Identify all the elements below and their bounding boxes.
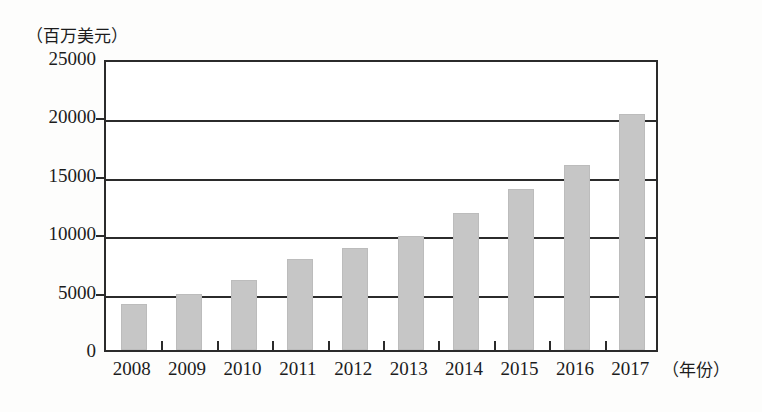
bar-2013: [398, 236, 424, 350]
y-axis-tick-mark: [96, 118, 104, 120]
x-axis-tick-mark: [438, 341, 440, 350]
x-axis-tick-mark: [383, 341, 385, 350]
y-axis-tick-label: 5000: [0, 283, 96, 302]
bar-slot: [438, 62, 493, 350]
bar-slot: [383, 62, 438, 350]
y-axis-tick-label: 25000: [0, 49, 96, 68]
bar-chart-figure: （百万美元） 0500010000150002000025000 2008200…: [0, 0, 762, 412]
y-axis-tick-label: 0: [0, 341, 96, 360]
bar-2008: [121, 304, 147, 350]
bar-2011: [287, 259, 313, 350]
y-axis-tick-mark: [96, 294, 104, 296]
y-axis-tick-label: 15000: [0, 166, 96, 185]
bar-slot: [106, 62, 161, 350]
y-axis-tick-mark: [96, 235, 104, 237]
x-axis-tick-mark: [494, 341, 496, 350]
bar-2017: [619, 114, 645, 350]
bar-slot: [217, 62, 272, 350]
bar-slot: [161, 62, 216, 350]
x-axis-unit-label: （年份）: [662, 356, 730, 381]
y-axis-unit-label: （百万美元）: [26, 22, 128, 47]
x-axis-tick-mark: [217, 341, 219, 350]
bar-2016: [564, 165, 590, 350]
bar-slot: [494, 62, 549, 350]
bar-slot: [272, 62, 327, 350]
bar-2015: [508, 189, 534, 350]
x-axis-tick-mark: [161, 341, 163, 350]
x-axis-tick-mark: [272, 341, 274, 350]
x-axis-tick-mark: [605, 341, 607, 350]
bar-slot: [549, 62, 604, 350]
y-axis-tick-label: 10000: [0, 224, 96, 243]
x-axis-tick-label-2017: 2017: [590, 358, 670, 380]
bar-2014: [453, 213, 479, 350]
bar-series: [106, 62, 656, 350]
plot-area: [104, 60, 658, 352]
y-axis-tick-label: 20000: [0, 107, 96, 126]
x-axis-tick-mark: [328, 341, 330, 350]
y-axis-tick-mark: [96, 177, 104, 179]
bar-2010: [231, 280, 257, 350]
x-axis-tick-mark: [549, 341, 551, 350]
bar-slot: [605, 62, 660, 350]
bar-slot: [328, 62, 383, 350]
bar-2012: [342, 248, 368, 350]
bar-2009: [176, 294, 202, 350]
